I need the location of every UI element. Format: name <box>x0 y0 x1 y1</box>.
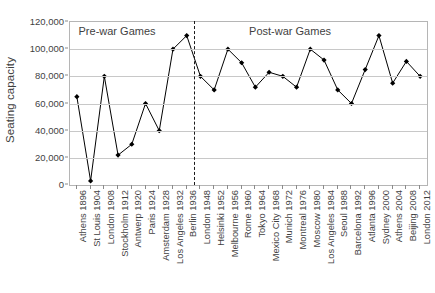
x-tick-label: Barcelona 1992 <box>354 190 363 255</box>
y-axis-title-text: Seating capacity <box>4 57 16 143</box>
y-tick-mark <box>65 184 68 185</box>
x-tick-label: Mexico City 1968 <box>272 190 281 261</box>
gridline <box>70 158 427 159</box>
y-tick-label: 80,000 <box>35 70 64 81</box>
x-tick-label: Moscow 1980 <box>313 190 322 247</box>
x-tick-mark <box>268 185 269 189</box>
x-tick-label: Seoul 1988 <box>340 190 349 237</box>
x-tick-mark <box>90 185 91 189</box>
x-tick-mark <box>282 185 283 189</box>
x-tick-mark <box>199 185 200 189</box>
data-point-marker: Sydney 2000: 110,000 <box>376 33 381 38</box>
post-war-label: Post-war Games <box>249 25 331 37</box>
x-tick-mark <box>158 185 159 189</box>
x-tick-label: Antwerp 1920 <box>134 190 143 247</box>
x-tick-label: Los Angeles 1932 <box>176 190 185 264</box>
y-tick-label: 40,000 <box>35 124 64 135</box>
series-polyline <box>77 36 420 181</box>
pre-war-label: Pre-war Games <box>79 25 156 37</box>
y-axis-tick-labels: 020,00040,00060,00080,000100,000120,000 <box>16 0 68 200</box>
x-tick-mark <box>131 185 132 189</box>
gridline <box>70 76 427 77</box>
x-tick-label: Athens 2004 <box>395 190 404 242</box>
x-tick-mark <box>186 185 187 189</box>
gridline <box>70 104 427 105</box>
x-tick-mark <box>213 185 214 189</box>
x-tick-mark <box>227 185 228 189</box>
x-tick-mark <box>392 185 393 189</box>
y-tick-mark <box>65 75 68 76</box>
x-tick-mark <box>172 185 173 189</box>
x-tick-label: Montreal 1976 <box>299 190 308 249</box>
x-tick-label: London 1948 <box>203 190 212 244</box>
x-tick-mark <box>117 185 118 189</box>
y-tick-mark <box>65 156 68 157</box>
x-tick-label: London 2012 <box>423 190 432 244</box>
gridline <box>70 131 427 132</box>
x-tick-mark <box>309 185 310 189</box>
x-tick-mark <box>378 185 379 189</box>
data-point-marker: Atlanta 1996: 85,000 <box>363 67 368 72</box>
x-tick-label: Paris 1924 <box>148 190 157 234</box>
x-axis-tick-labels: Athens 1896St Louis 1904London 1908Stock… <box>69 190 426 290</box>
x-tick-label: Munich 1972 <box>285 190 294 243</box>
y-tick-label: 120,000 <box>30 16 64 27</box>
data-point-marker: Athens 1896: 65,000 <box>74 94 79 99</box>
y-tick-mark <box>65 129 68 130</box>
x-tick-label: Melbourne 1956 <box>231 190 240 257</box>
x-tick-label: Los Angeles 1984 <box>327 190 336 264</box>
x-tick-mark <box>241 185 242 189</box>
x-tick-mark <box>419 185 420 189</box>
y-tick-label: 0 <box>59 179 64 190</box>
x-tick-mark <box>103 185 104 189</box>
x-tick-label: Athens 1896 <box>79 190 88 242</box>
war-divider <box>194 21 195 185</box>
x-tick-mark <box>405 185 406 189</box>
x-tick-mark <box>254 185 255 189</box>
data-point-marker: Athens 2004: 75,000 <box>390 81 395 86</box>
y-tick-mark <box>65 102 68 103</box>
y-tick-label: 20,000 <box>35 151 64 162</box>
x-tick-label: London 1908 <box>107 190 116 244</box>
y-tick-mark <box>65 48 68 49</box>
x-tick-label: Beijing 2008 <box>409 190 418 241</box>
x-tick-label: Atlanta 1996 <box>368 190 377 242</box>
x-tick-mark <box>364 185 365 189</box>
x-tick-label: Tokyo 1964 <box>258 190 267 238</box>
x-tick-label: St Louis 1904 <box>93 190 102 247</box>
plot-area: Athens 1896: 65,000St Louis 1904: 3,000L… <box>69 21 428 186</box>
x-tick-mark <box>76 185 77 189</box>
y-tick-label: 60,000 <box>35 97 64 108</box>
x-tick-label: Rome 1960 <box>244 190 253 238</box>
x-tick-mark <box>296 185 297 189</box>
olympic-seating-capacity-chart: Seating capacity 020,00040,00060,00080,0… <box>0 0 435 293</box>
y-tick-mark <box>65 21 68 22</box>
gridline <box>70 49 427 50</box>
x-tick-label: Stockholm 1912 <box>121 190 130 257</box>
x-tick-label: Amsterdam 1928 <box>162 190 171 261</box>
x-tick-label: Sydney 2000 <box>382 190 391 244</box>
x-tick-mark <box>350 185 351 189</box>
x-tick-mark <box>323 185 324 189</box>
data-point-marker: St Louis 1904: 3,000 <box>88 178 93 183</box>
x-tick-label: Helsinki 1952 <box>217 190 226 246</box>
y-tick-label: 100,000 <box>30 43 64 54</box>
x-tick-mark <box>145 185 146 189</box>
x-tick-label: Berlin 1936 <box>189 190 198 237</box>
x-tick-mark <box>337 185 338 189</box>
